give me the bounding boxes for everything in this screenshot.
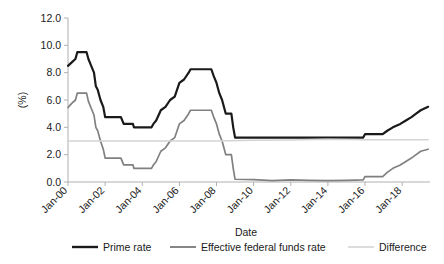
line-chart: 0.02.04.06.08.010.012.0 Jan-00Jan-02Jan-…: [0, 0, 444, 264]
y-tick-label: 10.0: [41, 39, 62, 51]
plot-background: [0, 0, 444, 264]
y-axis-title: (%): [16, 92, 28, 108]
legend-label: Difference: [379, 241, 427, 253]
chart-container: 0.02.04.06.08.010.012.0 Jan-00Jan-02Jan-…: [0, 0, 444, 264]
x-axis-title: Date: [235, 226, 257, 238]
y-tick-label: 12.0: [41, 12, 62, 24]
y-tick-label: 6.0: [46, 94, 61, 106]
y-tick-label: 2.0: [46, 148, 61, 160]
legend-label: Prime rate: [103, 241, 152, 253]
y-tick-label: 4.0: [46, 121, 61, 133]
y-tick-label: 8.0: [46, 66, 61, 78]
legend-label: Effective federal funds rate: [201, 241, 326, 253]
